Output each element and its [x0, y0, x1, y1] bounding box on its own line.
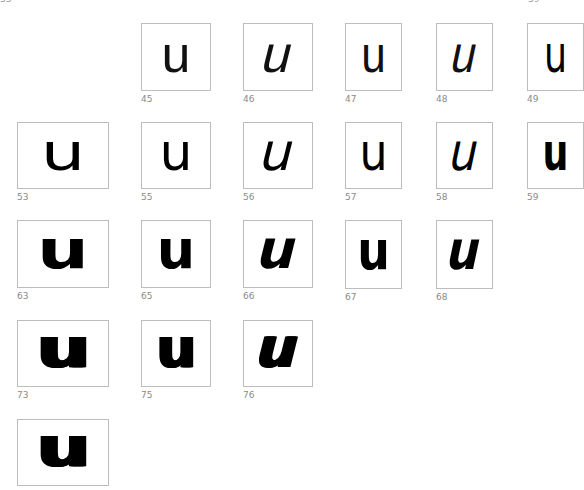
- specimen-glyph: u: [142, 223, 210, 277]
- specimen-box: u: [436, 122, 493, 189]
- specimen-number-label: 45: [141, 95, 152, 104]
- specimen-glyph: u: [436, 126, 493, 178]
- specimen-box: u: [17, 220, 109, 288]
- specimen-cell: u66: [243, 220, 313, 304]
- specimen-cell: u56: [243, 122, 313, 205]
- specimen-box: u: [345, 23, 402, 91]
- specimen-glyph: u: [17, 126, 109, 178]
- specimen-glyph: u: [350, 126, 397, 178]
- specimen-glyph: u: [243, 126, 313, 178]
- specimen-box: u: [345, 220, 402, 289]
- specimen-cell: u68: [436, 220, 493, 305]
- specimen-box: u: [141, 220, 211, 288]
- specimen-cell: u53: [17, 122, 109, 205]
- specimen-cell: u57: [345, 122, 402, 205]
- specimen-glyph: u: [243, 223, 313, 277]
- specimen-cell: u67: [345, 220, 402, 305]
- specimen-number-label: 75: [141, 391, 152, 400]
- specimen-box: u: [141, 23, 211, 91]
- specimen-number-label: 46: [243, 95, 254, 104]
- specimen-cell: u49: [527, 23, 584, 107]
- specimen-glyph: u: [142, 126, 210, 178]
- specimen-glyph: u: [142, 320, 210, 376]
- specimen-number-label: 66: [243, 292, 254, 301]
- specimen-glyph: u: [350, 28, 397, 80]
- specimen-box: u: [527, 122, 584, 189]
- specimen-cell: u75: [141, 320, 211, 403]
- specimen-number-label: 76: [243, 391, 254, 400]
- specimen-number-label: 56: [243, 193, 254, 202]
- specimen-glyph: u: [17, 223, 109, 277]
- specimen-box: u: [436, 220, 493, 289]
- specimen-box: u: [17, 122, 109, 189]
- specimen-cell: u46: [243, 23, 313, 107]
- specimen-box: u: [243, 122, 313, 189]
- specimen-box: u: [527, 23, 584, 91]
- specimen-number-label: 57: [345, 193, 356, 202]
- specimen-box: u: [436, 23, 493, 91]
- specimen-cell: u63: [17, 220, 109, 304]
- specimen-glyph: u: [17, 320, 109, 376]
- specimen-cell: u48: [436, 23, 493, 107]
- specimen-number-label: 48: [436, 95, 447, 104]
- specimen-box: u: [243, 23, 313, 91]
- specimen-cell: u76: [243, 320, 313, 403]
- specimen-number-label: 55: [141, 193, 152, 202]
- specimen-number-label: 59: [527, 193, 538, 202]
- specimen-box: u: [345, 122, 402, 189]
- specimen-number-label: 47: [345, 95, 356, 104]
- specimen-number-label: 53: [17, 193, 28, 202]
- specimen-cell: u: [17, 419, 109, 490]
- specimen-box: u: [17, 419, 109, 486]
- specimen-cell: u47: [345, 23, 402, 107]
- specimen-glyph: u: [17, 419, 109, 475]
- specimen-cell: u65: [141, 220, 211, 304]
- specimen-box: u: [243, 220, 313, 288]
- cropped-label-top-left: 33: [0, 0, 11, 4]
- specimen-cell: u59: [527, 122, 584, 205]
- specimen-glyph: u: [536, 126, 575, 178]
- specimen-number-label: 49: [527, 95, 538, 104]
- specimen-box: u: [141, 320, 211, 387]
- specimen-glyph: u: [350, 224, 397, 278]
- specimen-glyph: u: [436, 224, 493, 278]
- specimen-glyph: u: [142, 28, 210, 80]
- specimen-box: u: [17, 320, 109, 387]
- specimen-number-label: 68: [436, 293, 447, 302]
- specimen-box: u: [243, 320, 313, 387]
- specimen-cell: u55: [141, 122, 211, 205]
- specimen-glyph: u: [436, 28, 493, 80]
- specimen-glyph: u: [536, 28, 575, 80]
- specimen-glyph: u: [243, 320, 313, 376]
- specimen-number-label: 65: [141, 292, 152, 301]
- specimen-cell: u73: [17, 320, 109, 403]
- cropped-label-top-right: 39: [528, 0, 539, 4]
- specimen-box: u: [141, 122, 211, 189]
- specimen-number-label: 63: [17, 292, 28, 301]
- specimen-glyph: u: [243, 28, 313, 80]
- specimen-number-label: 73: [17, 391, 28, 400]
- specimen-number-label: 58: [436, 193, 447, 202]
- specimen-number-label: 67: [345, 293, 356, 302]
- specimen-cell: u58: [436, 122, 493, 205]
- specimen-cell: u45: [141, 23, 211, 107]
